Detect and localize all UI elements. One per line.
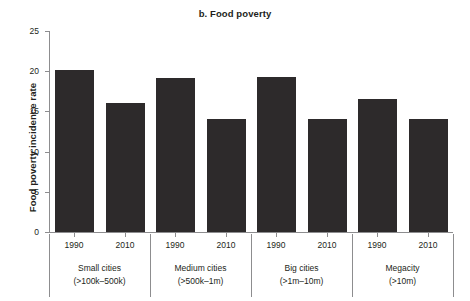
x-group-label: Big cities(>1m–10m) [280, 262, 324, 287]
y-tick-label: 10 [30, 147, 39, 157]
y-tick: 20 [45, 71, 49, 72]
x-year-label: 1990 [267, 240, 286, 250]
y-tick-label: 20 [30, 66, 39, 76]
y-tick-label: 5 [34, 187, 39, 197]
x-year-label: 2010 [318, 240, 337, 250]
x-minor-tick [377, 233, 378, 237]
x-group-label-name: Big cities [280, 262, 324, 275]
bar [156, 78, 195, 232]
x-year-label: 1990 [65, 240, 84, 250]
x-group-label-range: (>10m) [385, 275, 419, 288]
x-group-label-range: (>500k–1m) [175, 275, 227, 288]
group-separator [49, 234, 50, 297]
bar [257, 77, 296, 232]
x-group-label-range: (>100k–500k) [73, 275, 125, 288]
x-minor-tick [226, 233, 227, 237]
x-group-label-name: Medium cities [175, 262, 227, 275]
x-minor-tick [74, 233, 75, 237]
x-group-label: Megacity(>10m) [385, 262, 419, 287]
bar [55, 70, 94, 232]
bar [106, 103, 145, 232]
x-minor-tick [125, 233, 126, 237]
group-separator [251, 234, 252, 297]
y-tick: 25 [45, 31, 49, 32]
x-group-label-range: (>1m–10m) [280, 275, 324, 288]
y-tick: 0 [45, 232, 49, 233]
x-year-label: 1990 [368, 240, 387, 250]
y-tick: 5 [45, 192, 49, 193]
x-minor-tick [175, 233, 176, 237]
bar [358, 99, 397, 232]
x-year-label: 2010 [116, 240, 135, 250]
x-year-label: 1990 [166, 240, 185, 250]
chart-title: b. Food poverty [0, 8, 470, 19]
bar [409, 119, 448, 232]
x-group-label-name: Megacity [385, 262, 419, 275]
y-tick: 10 [45, 152, 49, 153]
x-minor-tick [428, 233, 429, 237]
x-group-label: Medium cities(>500k–1m) [175, 262, 227, 287]
group-separator [453, 234, 454, 297]
bar [308, 119, 347, 232]
plot-area: 0510152025 [49, 31, 453, 232]
y-tick: 15 [45, 111, 49, 112]
chart-figure: b. Food poverty Food poverty incidence r… [0, 0, 470, 301]
group-separator [352, 234, 353, 297]
x-group-label: Small cities(>100k–500k) [73, 262, 125, 287]
y-tick-label: 15 [30, 106, 39, 116]
x-minor-tick [327, 233, 328, 237]
y-axis-line [49, 31, 50, 232]
x-minor-tick [276, 233, 277, 237]
y-tick-label: 0 [34, 227, 39, 237]
x-year-label: 2010 [419, 240, 438, 250]
x-axis-line [49, 232, 453, 233]
x-year-label: 2010 [217, 240, 236, 250]
y-tick-label: 25 [30, 26, 39, 36]
group-separator [150, 234, 151, 297]
bar [207, 119, 246, 232]
x-group-label-name: Small cities [73, 262, 125, 275]
